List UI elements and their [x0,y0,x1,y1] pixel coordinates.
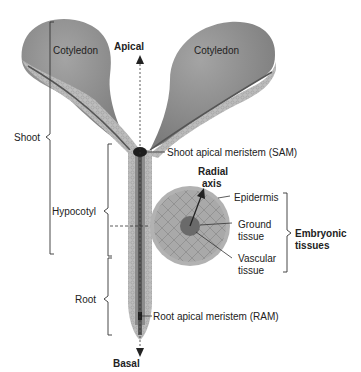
label-vascular-2: tissue [238,265,265,276]
root-bracket [104,258,112,335]
epidermis-leader [218,196,230,198]
label-radial-1: Radial [198,166,228,177]
label-cotyledon-right: Cotyledon [194,45,239,56]
label-vascular-1: Vascular [238,253,277,264]
label-embryonic-2: tissues [295,240,330,251]
label-embryonic-1: Embryonic [295,228,347,239]
label-apical: Apical [114,41,144,52]
label-cotyledon-left: Cotyledon [53,45,98,56]
label-shoot: Shoot [14,132,40,143]
basal-arrow-icon [136,348,144,357]
embryo-diagram: Cotyledon Cotyledon Apical Basal Shoot H… [0,0,361,372]
label-ground-2: tissue [238,231,265,242]
label-basal: Basal [113,358,140,369]
label-epidermis: Epidermis [234,192,278,203]
label-ram: Root apical meristem (RAM) [153,311,279,322]
label-ground-1: Ground [238,219,271,230]
apical-arrow-icon [136,55,144,64]
label-hypocotyl: Hypocotyl [52,206,96,217]
label-root: Root [75,294,96,305]
label-radial-2: axis [202,178,222,189]
embryonic-bracket [283,193,291,272]
hypocotyl-bracket [104,144,112,256]
label-sam: Shoot apical meristem (SAM) [167,147,297,158]
cotyledon-right [148,22,276,158]
